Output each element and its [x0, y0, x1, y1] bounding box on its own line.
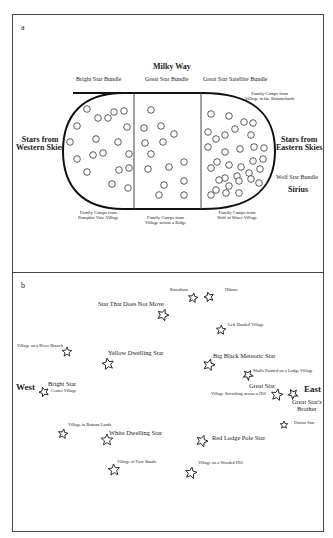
star-circle — [156, 192, 163, 199]
star-circle — [213, 187, 220, 194]
kawaharu-label: Kawaharu — [170, 288, 188, 293]
village-in-bottom-lands-label: Village in Bottom Lands — [68, 423, 111, 428]
village-on-wooded-hill-label: Village on a Wooded Hill — [198, 461, 243, 466]
bright-star-label: Bright Star — [48, 381, 76, 388]
star-circle — [74, 123, 81, 130]
star-circle — [95, 115, 102, 122]
star-circle — [126, 165, 133, 172]
star-circle — [67, 139, 74, 146]
star-circle — [171, 131, 178, 138]
star-icon — [216, 325, 226, 335]
label-line: Brother — [292, 406, 322, 413]
star-circle — [84, 169, 91, 176]
star-icon — [188, 292, 199, 303]
doctor-star-label: Doctor Star — [294, 421, 314, 426]
panel-b: b Kawaharu Hikuru Star That Does Not Mov… — [12, 272, 324, 532]
white-dwelling-star-label: White Dwelling Star — [109, 430, 162, 437]
star-circle — [160, 139, 167, 146]
star-circle — [226, 183, 233, 190]
star-circle — [93, 136, 100, 143]
star-circle — [205, 144, 212, 151]
star-icon — [156, 307, 170, 321]
star-icon — [62, 347, 72, 356]
star-circle — [213, 136, 220, 143]
star-circle — [250, 158, 257, 165]
skulls-painted-village-label: Skulls Painted on a Lodge Village — [253, 369, 313, 374]
panel-a: a Milky Way Bright Star Bundle Great Sta… — [12, 14, 324, 273]
star-circle — [208, 192, 215, 199]
star-icon — [195, 433, 209, 447]
star-circle — [148, 151, 155, 158]
star-map — [13, 273, 325, 533]
star-icon — [203, 291, 215, 302]
star-circle — [121, 108, 128, 115]
star-circle — [226, 113, 233, 120]
star-circle — [148, 107, 155, 114]
star-circle — [261, 145, 268, 152]
star-circle — [90, 152, 97, 159]
star-icon — [271, 388, 284, 401]
star-circle — [251, 144, 258, 151]
star-circle — [236, 178, 243, 185]
star-circle — [222, 132, 229, 139]
great-stars-brother-label: Great Star's Brother — [292, 399, 322, 412]
star-circle — [208, 111, 215, 118]
star-circle — [166, 164, 173, 171]
left-handed-village-label: Left Handed Village — [228, 323, 264, 328]
star-circle — [74, 156, 81, 163]
great-star-label: Great Star — [249, 383, 275, 390]
star-circle — [222, 175, 229, 182]
star-icon — [58, 428, 69, 439]
star-circle — [257, 166, 264, 173]
star-circle — [158, 123, 165, 130]
star-circle — [238, 164, 245, 171]
star-circle — [142, 140, 149, 147]
star-icon — [101, 357, 114, 370]
star-circle — [236, 190, 243, 197]
star-icon — [108, 464, 120, 476]
star-circle — [111, 109, 118, 116]
star-circle — [256, 180, 263, 187]
star-circle — [226, 162, 233, 169]
center-village-label: Center Village — [51, 389, 76, 394]
star-circle — [260, 156, 267, 163]
star-circle — [84, 106, 91, 113]
star-circle — [250, 120, 257, 127]
star-circle — [223, 190, 230, 197]
star-circle — [237, 146, 244, 153]
star-circle — [100, 150, 107, 157]
star-circle — [181, 178, 188, 185]
east-label: East — [304, 385, 321, 394]
star-icon — [185, 466, 198, 479]
big-black-meteoric-star-label: Big Black Meteoric Star — [213, 353, 275, 360]
star-circle — [105, 115, 112, 122]
village-stretching-label: Village Stretching across a Hill — [211, 392, 266, 397]
star-icon — [202, 358, 216, 371]
star-circle — [145, 166, 152, 173]
star-circle — [216, 177, 223, 184]
star-circle — [124, 124, 131, 131]
red-lodge-pole-star-label: Red Lodge Pole Star — [212, 435, 265, 442]
west-label: West — [16, 383, 35, 392]
star-circle — [116, 167, 123, 174]
milky-way-diagram — [13, 15, 325, 274]
star-circle — [161, 182, 168, 189]
star-circle — [125, 185, 132, 192]
star-circle — [248, 132, 255, 139]
star-circle — [241, 119, 248, 126]
star-circle — [181, 192, 188, 199]
star-circle — [109, 181, 116, 188]
star-circle — [214, 159, 221, 166]
star-icon — [280, 421, 288, 428]
star-circle — [222, 149, 229, 156]
star-circle — [141, 125, 148, 132]
village-on-river-branch-label: Village on a River Branch — [17, 344, 63, 349]
star-circles — [67, 106, 268, 199]
star-circle — [208, 165, 215, 172]
star-circle — [126, 151, 133, 158]
star-that-does-not-move-label: Star That Does Not Move — [98, 301, 164, 308]
star-circle — [246, 170, 253, 177]
hikuru-label: Hikuru — [225, 288, 237, 293]
yellow-dwelling-star-label: Yellow Dwelling Star — [108, 350, 163, 357]
star-circle — [248, 176, 255, 183]
